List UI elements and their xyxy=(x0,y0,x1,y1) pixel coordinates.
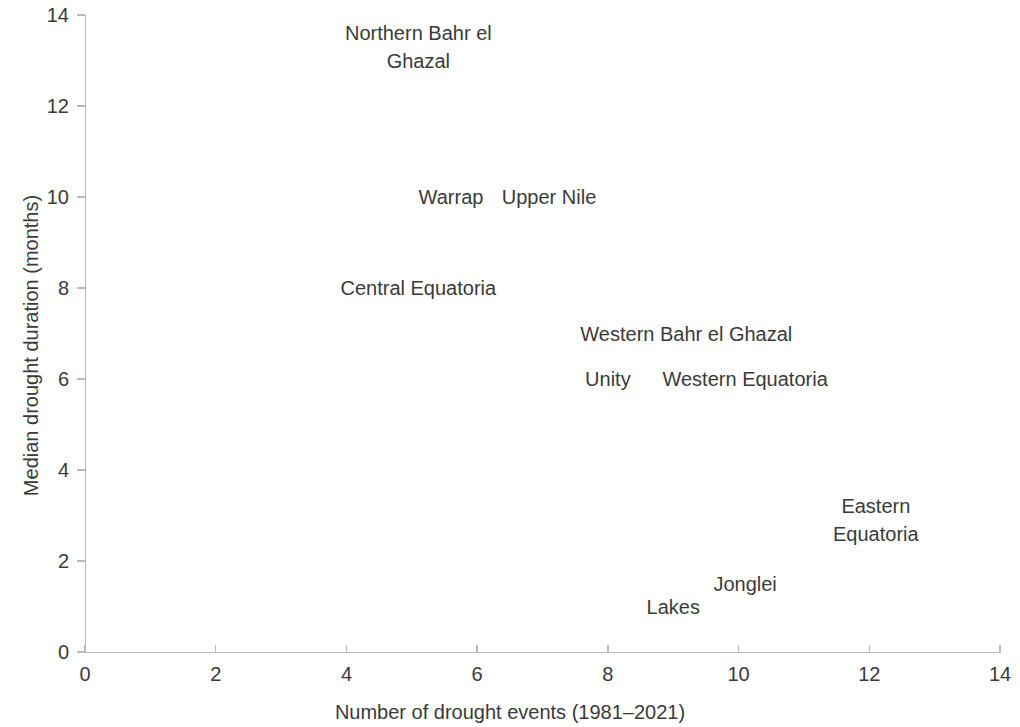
point-label-unity: Unity xyxy=(585,365,631,393)
point-label-eastern-equatoria: Eastern Equatoria xyxy=(804,492,948,548)
y-axis-title: Median drought duration (months) xyxy=(20,18,43,673)
x-tick-14 xyxy=(999,645,1000,653)
x-tick-label-10: 10 xyxy=(727,663,749,686)
point-label-warrap: Warrap xyxy=(419,183,484,211)
y-tick-label-4: 4 xyxy=(58,459,69,482)
x-tick-2 xyxy=(215,645,216,653)
y-tick-2 xyxy=(77,560,85,561)
x-tick-10 xyxy=(738,645,739,653)
x-tick-label-4: 4 xyxy=(341,663,352,686)
x-tick-label-12: 12 xyxy=(858,663,880,686)
y-tick-label-6: 6 xyxy=(58,368,69,391)
y-tick-label-0: 0 xyxy=(58,641,69,664)
x-tick-label-2: 2 xyxy=(210,663,221,686)
x-tick-label-8: 8 xyxy=(602,663,613,686)
x-tick-4 xyxy=(346,645,347,653)
point-label-western-equatoria: Western Equatoria xyxy=(662,365,827,393)
point-label-central-equatoria: Central Equatoria xyxy=(341,274,497,302)
x-tick-12 xyxy=(869,645,870,653)
y-tick-label-10: 10 xyxy=(47,186,69,209)
y-tick-8 xyxy=(77,287,85,288)
y-tick-label-12: 12 xyxy=(47,95,69,118)
y-tick-14 xyxy=(77,14,85,15)
y-axis-line xyxy=(85,15,86,653)
scatter-chart: 02468101214 02468101214 Northern Bahr el… xyxy=(0,0,1020,727)
x-tick-label-0: 0 xyxy=(79,663,90,686)
point-label-lakes: Lakes xyxy=(647,593,700,621)
y-tick-label-14: 14 xyxy=(47,4,69,27)
point-label-upper-nile: Upper Nile xyxy=(502,183,596,211)
point-label-jonglei: Jonglei xyxy=(713,570,776,598)
y-tick-4 xyxy=(77,469,85,470)
x-tick-0 xyxy=(84,645,85,653)
y-tick-label-8: 8 xyxy=(58,277,69,300)
x-tick-6 xyxy=(476,645,477,653)
y-tick-label-2: 2 xyxy=(58,550,69,573)
y-tick-6 xyxy=(77,378,85,379)
x-axis-line xyxy=(85,652,1000,653)
point-label-western-bahr-el-ghazal: Western Bahr el Ghazal xyxy=(580,320,792,348)
x-tick-label-6: 6 xyxy=(472,663,483,686)
x-axis-title: Number of drought events (1981–2021) xyxy=(0,701,1020,724)
y-tick-10 xyxy=(77,196,85,197)
point-label-northern-bahr-el-ghazal: Northern Bahr el Ghazal xyxy=(345,19,492,75)
y-tick-12 xyxy=(77,105,85,106)
x-tick-label-14: 14 xyxy=(989,663,1011,686)
x-tick-8 xyxy=(607,645,608,653)
